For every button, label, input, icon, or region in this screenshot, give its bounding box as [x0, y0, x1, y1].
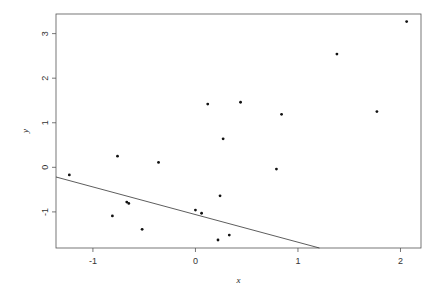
x-tick-label: 1	[295, 256, 300, 266]
data-point	[127, 202, 130, 205]
x-axis: -1012	[89, 248, 403, 266]
data-point	[116, 155, 119, 158]
data-point	[280, 113, 283, 116]
data-point	[206, 103, 209, 106]
y-axis: -10123	[40, 31, 56, 216]
data-point	[217, 239, 220, 242]
data-point	[219, 194, 222, 197]
y-tick-label: 3	[40, 31, 50, 36]
scatter-plot: -1012 -10123 x y	[0, 0, 443, 294]
data-point	[222, 137, 225, 140]
data-point	[275, 168, 278, 171]
y-tick-label: 2	[40, 76, 50, 81]
y-tick-label: 1	[40, 120, 50, 125]
data-point	[405, 20, 408, 23]
x-tick-label: 0	[193, 256, 198, 266]
y-tick-label: 0	[40, 165, 50, 170]
data-point	[111, 215, 114, 218]
data-point	[194, 209, 197, 212]
data-point	[228, 234, 231, 237]
data-point	[68, 174, 71, 177]
y-tick-label: -1	[40, 208, 50, 216]
x-axis-label: x	[236, 275, 241, 285]
data-point	[141, 228, 144, 231]
data-point	[157, 161, 160, 164]
fitted-line	[56, 177, 319, 248]
data-points	[68, 20, 408, 241]
data-point	[376, 110, 379, 113]
plot-frame	[56, 14, 421, 248]
data-point	[200, 212, 203, 215]
data-point	[239, 101, 242, 104]
data-point	[336, 53, 339, 56]
x-tick-label: -1	[89, 256, 97, 266]
x-tick-label: 2	[398, 256, 403, 266]
y-axis-label: y	[20, 129, 30, 134]
